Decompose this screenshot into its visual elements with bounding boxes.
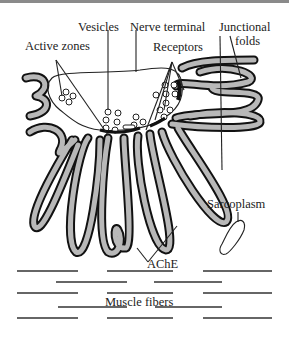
label-junctional-folds-1: Junctional [219,21,270,34]
label-active-zones: Active zones [25,40,90,53]
label-receptors: Receptors [153,41,203,54]
label-ache: AChE [147,258,178,271]
label-sarcoplasm: Sarcoplasm [207,198,265,211]
label-vesicles: Vesicles [78,21,119,34]
label-muscle-fibers: Muscle fibers [105,296,173,309]
label-nerve-terminal: Nerve terminal [130,21,205,34]
label-junctional-folds-2: folds [235,35,260,48]
